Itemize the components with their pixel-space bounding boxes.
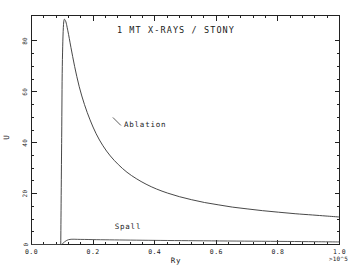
x-axis-label: Ry xyxy=(171,256,182,265)
y-tick-label: 60 xyxy=(22,88,29,96)
annotation-spall: Spall xyxy=(115,222,142,231)
x-tick-label: 0.6 xyxy=(210,248,223,256)
y-axis-label: U xyxy=(2,134,11,139)
chart-container: 0.00.20.40.60.81.0 020406080 1 MT X-RAYS… xyxy=(0,0,352,273)
x-tick-label: 0.2 xyxy=(87,248,100,256)
x-tick-label: 0.0 xyxy=(25,248,38,256)
y-tick-label: 0 xyxy=(22,242,29,246)
series-line-spall xyxy=(32,239,340,244)
ablation-leader-line xyxy=(113,117,121,125)
x-axis-exponent-note: >10^5 xyxy=(329,255,348,262)
chart-title: 1 MT X-RAYS / STONY xyxy=(117,25,235,35)
x-tick-label: 0.8 xyxy=(271,248,284,256)
annotation-ablation: Ablation xyxy=(124,120,167,129)
x-axis-ticks xyxy=(32,16,340,245)
x-axis-tick-labels: 0.00.20.40.60.81.0 xyxy=(25,248,346,256)
x-tick-label: 0.4 xyxy=(148,248,161,256)
y-tick-label: 40 xyxy=(22,139,29,147)
y-tick-label: 80 xyxy=(22,37,29,45)
chart-canvas: 0.00.20.40.60.81.0 020406080 1 MT X-RAYS… xyxy=(0,0,352,273)
y-axis-tick-labels: 020406080 xyxy=(22,37,29,247)
plot-frame xyxy=(32,16,340,245)
series-line-ablation xyxy=(32,19,340,244)
y-tick-label: 20 xyxy=(22,190,29,198)
